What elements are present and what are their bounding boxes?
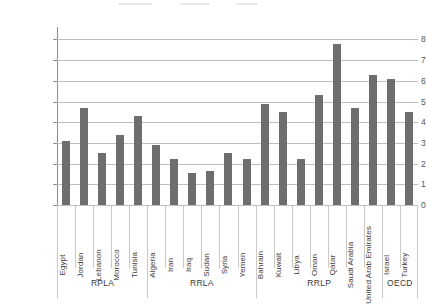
group-cell: RPLA — [57, 268, 147, 298]
chart-figure: 012345678 EgyptJordanLebanonMoroccoTunis… — [0, 0, 426, 307]
bar — [387, 79, 395, 205]
category-cell: Tunisia — [129, 206, 147, 268]
bar — [80, 108, 88, 205]
bar — [279, 112, 287, 205]
category-cell: Libya — [292, 206, 310, 268]
category-cell: Israel — [382, 206, 400, 268]
bar — [243, 159, 251, 205]
category-cell: Turkey — [400, 206, 418, 268]
category-cell: Lebanon — [93, 206, 111, 268]
category-cell: Iran — [165, 206, 183, 268]
category-cell: Kuwait — [274, 206, 292, 268]
bar — [188, 173, 196, 205]
gridline — [57, 184, 418, 185]
category-axis-labels: EgyptJordanLebanonMoroccoTunisiaAlgeriaI… — [57, 206, 418, 268]
bar — [297, 159, 305, 205]
bar — [261, 104, 269, 205]
bar — [116, 135, 124, 205]
bar — [170, 159, 178, 205]
bar — [315, 95, 323, 205]
category-cell: Iraq — [183, 206, 201, 268]
bar — [62, 141, 70, 205]
gridline — [57, 39, 418, 40]
category-cell: Syria — [219, 206, 237, 268]
group-label: RRLA — [190, 278, 214, 288]
category-cell: Yemen — [238, 206, 256, 268]
group-label: RRLP — [307, 278, 331, 288]
scan-artifact — [180, 3, 210, 5]
category-cell: United Arab Emirates — [364, 206, 382, 268]
gridline — [57, 102, 418, 103]
bar — [98, 153, 106, 205]
category-cell: Egypt — [57, 206, 75, 268]
bar — [224, 153, 232, 205]
bar — [134, 116, 142, 205]
category-cell: Bahrain — [256, 206, 274, 268]
group-label: OECD — [387, 278, 413, 288]
scan-artifact — [118, 3, 152, 5]
plot-area — [57, 27, 418, 205]
category-cell: Morocco — [111, 206, 129, 268]
category-cell: Sudan — [201, 206, 219, 268]
group-axis-labels: RPLARRLARRLPOECD — [57, 268, 418, 298]
category-cell: Saudi Arabia — [346, 206, 364, 268]
category-cell: Jordan — [75, 206, 93, 268]
category-cell: Oman — [310, 206, 328, 268]
gridline — [57, 143, 418, 144]
bar — [206, 171, 214, 205]
bar — [351, 108, 359, 205]
category-cell: Algeria — [147, 206, 165, 268]
group-cell: RRLA — [147, 268, 255, 298]
gridline — [57, 81, 418, 82]
gridline — [57, 60, 418, 61]
gridline — [57, 122, 418, 123]
group-cell: OECD — [382, 268, 418, 298]
group-label: RPLA — [91, 278, 114, 288]
bar — [333, 44, 341, 205]
scan-artifact — [236, 3, 258, 5]
bar — [152, 145, 160, 205]
bar — [369, 75, 377, 205]
gridline — [57, 164, 418, 165]
bar — [405, 112, 413, 205]
category-cell: Qatar — [328, 206, 346, 268]
group-cell: RRLP — [256, 268, 382, 298]
